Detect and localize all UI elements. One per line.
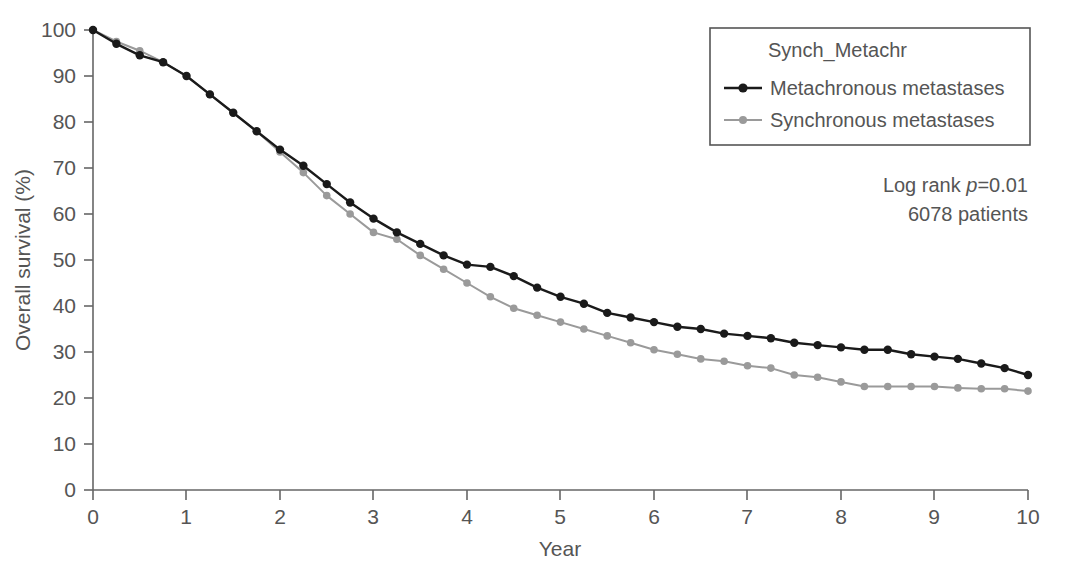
data-point (510, 272, 518, 280)
data-point (346, 198, 354, 206)
data-point (907, 350, 915, 358)
y-tick-label-80: 80 (53, 110, 76, 133)
y-axis-title: Overall survival (%) (11, 169, 34, 351)
data-point (1001, 385, 1009, 393)
chart-legend: Synch_Metachr Metachronous metastases Sy… (710, 28, 1030, 145)
data-point (440, 265, 448, 273)
data-point (767, 364, 775, 372)
x-axis-tick-labels: 0 1 2 3 4 5 6 7 8 9 10 (87, 505, 1040, 528)
data-point (323, 192, 331, 200)
data-point (860, 346, 868, 354)
data-point (767, 334, 775, 342)
data-point (533, 311, 541, 319)
data-point (463, 279, 471, 287)
y-tick-label-60: 60 (53, 202, 76, 225)
data-point (1000, 364, 1008, 372)
chart-canvas: 0 10 20 30 40 50 60 70 80 90 100 (0, 0, 1068, 569)
data-point (439, 251, 447, 259)
data-point (229, 109, 237, 117)
data-point (790, 371, 798, 379)
legend-title: Synch_Metachr (768, 39, 907, 62)
x-tick-label-2: 2 (274, 505, 286, 528)
y-tick-label-10: 10 (53, 432, 76, 455)
y-tick-label-20: 20 (53, 386, 76, 409)
data-point (954, 384, 962, 392)
x-tick-label-5: 5 (554, 505, 566, 528)
data-point (1024, 371, 1032, 379)
x-tick-label-6: 6 (648, 505, 660, 528)
data-point (533, 283, 541, 291)
x-axis-ticks (93, 490, 1028, 500)
data-point (89, 26, 97, 34)
data-point (580, 325, 588, 333)
data-point (300, 169, 308, 177)
data-point (487, 293, 495, 301)
data-point (369, 214, 377, 222)
legend-label-metachronous: Metachronous metastases (770, 77, 1005, 99)
chart-annotations: Log rank p=0.01 6078 patients (883, 174, 1028, 225)
data-point (720, 329, 728, 337)
data-point (112, 40, 120, 48)
data-point (276, 145, 284, 153)
data-point (603, 309, 611, 317)
x-tick-label-4: 4 (461, 505, 473, 528)
data-point (743, 332, 751, 340)
y-tick-label-30: 30 (53, 340, 76, 363)
data-point (814, 374, 822, 382)
data-point (931, 383, 939, 391)
data-point (861, 383, 869, 391)
data-point (744, 362, 752, 370)
data-point (697, 325, 705, 333)
y-tick-label-40: 40 (53, 294, 76, 317)
log-rank-annotation: Log rank p=0.01 (883, 174, 1028, 196)
data-point (697, 355, 705, 363)
y-tick-label-90: 90 (53, 64, 76, 87)
y-axis-ticks (84, 30, 93, 490)
data-point (393, 228, 401, 236)
y-tick-label-100: 100 (41, 18, 76, 41)
x-tick-label-7: 7 (741, 505, 753, 528)
data-point (884, 383, 892, 391)
data-point (159, 58, 167, 66)
y-tick-label-50: 50 (53, 248, 76, 271)
data-point (299, 162, 307, 170)
x-tick-label-0: 0 (87, 505, 99, 528)
data-point (323, 180, 331, 188)
data-point (720, 357, 728, 365)
log-rank-value: =0.01 (977, 174, 1028, 196)
data-point (790, 339, 798, 347)
data-point (557, 318, 565, 326)
data-point (252, 127, 260, 135)
data-point (393, 236, 401, 244)
data-point (650, 346, 658, 354)
legend-label-synchronous: Synchronous metastases (770, 109, 995, 131)
data-point (626, 313, 634, 321)
data-point (486, 263, 494, 271)
data-point (813, 341, 821, 349)
data-point (837, 343, 845, 351)
patients-annotation: 6078 patients (908, 203, 1028, 225)
data-point (674, 351, 682, 359)
x-tick-label-8: 8 (835, 505, 847, 528)
data-point (136, 51, 144, 59)
log-rank-prefix: Log rank (883, 174, 966, 196)
data-point (206, 90, 214, 98)
x-tick-label-9: 9 (928, 505, 940, 528)
y-axis-tick-labels: 0 10 20 30 40 50 60 70 80 90 100 (41, 18, 76, 501)
data-point (580, 300, 588, 308)
y-tick-label-0: 0 (64, 478, 76, 501)
data-point (930, 352, 938, 360)
data-point (627, 339, 635, 347)
x-axis-title: Year (539, 537, 581, 560)
data-point (837, 378, 845, 386)
data-point (416, 240, 424, 248)
data-point (346, 210, 354, 218)
data-point (370, 229, 378, 237)
data-point (603, 332, 611, 340)
data-point (463, 260, 471, 268)
y-tick-label-70: 70 (53, 156, 76, 179)
legend-marker-metachronous (738, 83, 747, 92)
data-point (673, 323, 681, 331)
data-point (650, 318, 658, 326)
survival-chart-figure: 0 10 20 30 40 50 60 70 80 90 100 (0, 0, 1068, 569)
